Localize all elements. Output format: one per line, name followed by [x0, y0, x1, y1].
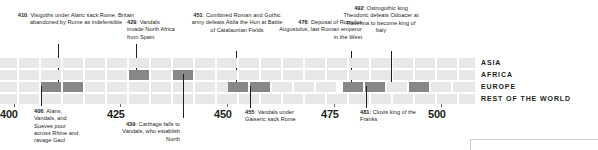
grid-cell — [195, 94, 215, 104]
grid-cell — [327, 58, 347, 68]
grid-cell — [261, 94, 281, 104]
event-callout-451: 451: Combined Roman and Gothic army defe… — [189, 12, 285, 34]
event-callout-429: 429: Vandals invade North Africa from Sp… — [127, 19, 177, 41]
grid-cell — [459, 70, 475, 80]
grid-cell — [283, 58, 303, 68]
grid-cell — [437, 94, 457, 104]
grid-cell — [151, 82, 171, 92]
grid-cell — [459, 58, 475, 68]
grid-cell — [41, 70, 61, 80]
grid-cell — [393, 94, 413, 104]
axis-year-450: 450 — [214, 108, 232, 120]
region-label-rest-of-the-world: REST OF THE WORLD — [481, 95, 571, 102]
event-leader-481 — [366, 86, 367, 108]
event-callout-455: 455: Vandals under Gaiseric sack Rome — [245, 109, 311, 124]
grid-cell — [371, 58, 391, 68]
grid-cell — [305, 58, 325, 68]
grid-cell — [0, 58, 17, 68]
region-label-europe: EUROPE — [481, 83, 516, 90]
axis-year-500: 500 — [428, 108, 446, 120]
grid-cell — [129, 94, 149, 104]
grid-row-asia — [0, 58, 475, 68]
grid-cell — [327, 70, 347, 80]
grid-cell — [151, 70, 171, 80]
grid-cell — [261, 58, 281, 68]
grid-cell — [294, 82, 314, 92]
grid-cell — [63, 70, 83, 80]
event-callout-492: 492: Ostrogothic king Theodoric defeats … — [342, 5, 420, 34]
event-year-439: 439 — [126, 121, 135, 127]
grid-cell-filled — [63, 82, 83, 92]
grid-cell — [0, 70, 17, 80]
grid-cell — [349, 70, 369, 80]
grid-cell — [41, 94, 61, 104]
axis-year-475: 475 — [321, 108, 339, 120]
grid-cell — [415, 70, 435, 80]
grid-cell — [437, 70, 457, 80]
grid-cell — [217, 94, 237, 104]
grid-row-africa — [0, 70, 475, 80]
grid-cell — [387, 82, 407, 92]
grid-cell — [217, 70, 237, 80]
grid-cell — [107, 82, 127, 92]
grid-cell — [19, 82, 39, 92]
grid-cell — [459, 94, 475, 104]
grid-cell — [63, 94, 83, 104]
axis-tick-450 — [227, 104, 228, 107]
grid-cell — [107, 94, 127, 104]
event-year-492: 492 — [354, 5, 363, 11]
region-label-africa: AFRICA — [481, 71, 513, 78]
grid-cell — [453, 82, 475, 92]
event-leader-455 — [250, 86, 251, 108]
grid-cell — [305, 70, 325, 80]
event-leader-406 — [41, 86, 42, 106]
grid-cell — [283, 70, 303, 80]
grid-cell — [371, 70, 391, 80]
grid-cell — [173, 58, 193, 68]
grid-cell — [415, 94, 435, 104]
grid-cell-filled — [41, 82, 61, 92]
timeline-figure: 410: Visigoths under Alaric sack Rome. B… — [0, 0, 598, 150]
grid-cell — [415, 58, 435, 68]
grid-row-rest-of-the-world — [0, 94, 475, 104]
grid-cell — [327, 94, 347, 104]
region-label-asia: ASIA — [481, 59, 501, 66]
grid-cell — [85, 58, 105, 68]
grid-cell — [239, 94, 259, 104]
grid-cell — [129, 58, 149, 68]
grid-cell — [19, 58, 39, 68]
grid-cell — [272, 82, 292, 92]
grid-cell — [107, 58, 127, 68]
grid-cell-filled — [365, 82, 385, 92]
grid-cell-filled — [409, 82, 429, 92]
grid-cell-filled — [250, 82, 270, 92]
grid-cell — [195, 58, 215, 68]
event-year-451: 451 — [193, 12, 202, 18]
grid-cell — [0, 82, 17, 92]
axis-tick-400 — [14, 104, 15, 107]
grid-cell — [85, 82, 105, 92]
event-callout-481: 481: Clovis king of the Franks — [360, 109, 420, 124]
event-text-451: Combined Roman and Gothic army defeats A… — [192, 12, 283, 33]
grid-cell — [85, 70, 105, 80]
grid-cell — [85, 94, 105, 104]
grid-cell — [437, 58, 457, 68]
region-grid — [0, 58, 475, 103]
grid-cell — [393, 70, 413, 80]
grid-row-europe — [0, 82, 475, 92]
grid-cell — [19, 94, 39, 104]
grid-cell — [0, 94, 17, 104]
grid-cell — [129, 82, 149, 92]
grid-cell — [239, 58, 259, 68]
grid-cell — [41, 58, 61, 68]
grid-cell — [195, 82, 215, 92]
grid-cell — [151, 58, 171, 68]
grid-cell — [239, 70, 259, 80]
grid-cell — [305, 94, 325, 104]
axis-year-400: 400 — [0, 108, 18, 120]
grid-cell — [316, 82, 336, 92]
axis-year-425: 425 — [107, 108, 125, 120]
grid-cell — [63, 58, 83, 68]
corner-box-fragment — [470, 139, 598, 150]
grid-cell — [19, 70, 39, 80]
